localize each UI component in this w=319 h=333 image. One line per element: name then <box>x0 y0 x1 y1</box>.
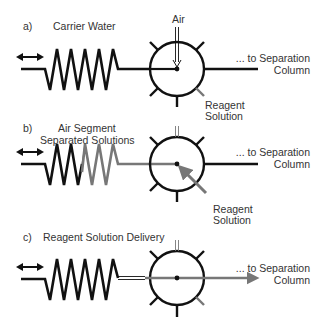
holding-coil-reagent <box>82 144 177 185</box>
output-label-c-line2: Column <box>230 274 310 286</box>
output-label-b-line2: Column <box>230 158 310 170</box>
panel-b-letter: b) <box>23 122 32 134</box>
output-label-c-line1: ... to Separation <box>230 262 310 274</box>
holding-coil-carrier <box>21 144 82 185</box>
output-label-a-line1: ... to Separation <box>230 52 310 64</box>
panel-b-title-line2: Separated Solutions <box>40 134 135 146</box>
air-label: Air <box>172 13 185 25</box>
bidirectional-arrow-icon <box>16 263 44 271</box>
reagent-label-b-line2: Solution <box>213 214 251 226</box>
panel-a <box>16 27 258 107</box>
panel-c-title: Reagent Solution Delivery <box>43 231 164 243</box>
output-label-a-line2: Column <box>230 64 310 76</box>
panel-c <box>16 240 253 317</box>
bidirectional-arrow-icon <box>16 148 44 156</box>
panel-a-title: Carrier Water <box>53 20 116 32</box>
reagent-label-a-line2: Solution <box>205 110 243 122</box>
bidirectional-arrow-icon <box>16 53 44 61</box>
panel-c-letter: c) <box>23 231 32 243</box>
panel-a-letter: a) <box>23 20 32 32</box>
panel-b-title-line1: Air Segment <box>58 122 116 134</box>
holding-coil <box>21 259 118 300</box>
output-label-b-line1: ... to Separation <box>230 146 310 158</box>
